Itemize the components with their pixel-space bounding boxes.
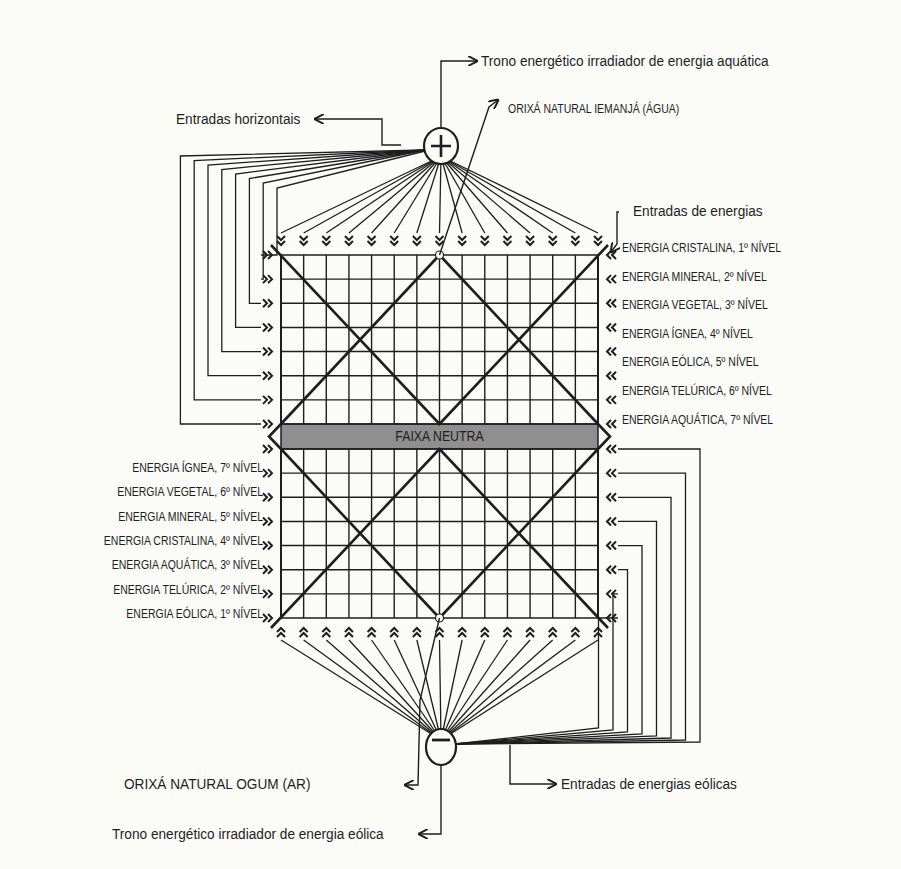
- chevron-up-icon: [458, 628, 466, 637]
- chevron-right-icon: [263, 590, 272, 598]
- chevron-right-icon: [263, 420, 272, 428]
- chevron-left-icon: [607, 420, 616, 428]
- right-level-label: ENERGIA ÍGNEA, 4º NÍVEL: [622, 328, 753, 340]
- chevron-down-icon: [413, 236, 421, 245]
- fan-line: [448, 161, 553, 233]
- eolic-entries-arrow: [510, 745, 556, 784]
- chevron-left-icon: [607, 469, 616, 477]
- fan-line: [281, 161, 431, 233]
- fan-line: [450, 161, 598, 233]
- chevron-right-icon: [263, 517, 272, 525]
- energy-entries-label: Entradas de energias: [633, 203, 763, 219]
- horizontal-entries-arrow: [315, 119, 401, 145]
- bottom-throne-label: Trono energético irradiador de energia e…: [112, 826, 384, 842]
- chevron-down-icon: [368, 236, 376, 245]
- chevron-right-icon: [263, 323, 272, 331]
- chevron-up-icon: [526, 628, 534, 637]
- left-level-label: ENERGIA TELÚRICA, 2º NÍVEL: [88, 584, 263, 596]
- chevron-left-icon: [607, 299, 616, 307]
- fan-line: [349, 161, 436, 233]
- left-level-label: ENERGIA VEGETAL, 6º NÍVEL: [88, 486, 263, 498]
- chevron-left-icon: [607, 275, 616, 283]
- chevron-left-icon: [607, 396, 616, 404]
- chevron-down-icon: [345, 236, 353, 245]
- eolic-entries-label: Entradas de energias eólicas: [561, 776, 737, 792]
- chevron-left-icon: [607, 445, 616, 453]
- fan-line: [417, 161, 440, 233]
- chevron-down-icon: [549, 236, 557, 245]
- iemanja-arrow: [440, 100, 499, 255]
- chevron-down-icon: [458, 236, 466, 245]
- chevron-left-icon: [607, 517, 616, 525]
- chevron-right-icon: [263, 275, 272, 283]
- left-level-label: ENERGIA AQUÁTICA, 3º NÍVEL: [88, 559, 263, 571]
- chevron-up-icon: [390, 628, 398, 637]
- left-level-label: ENERGIA CRISTALINA, 4º NÍVEL: [88, 535, 263, 547]
- chevron-down-icon: [594, 236, 602, 245]
- fan-line: [445, 640, 507, 734]
- fan-line: [304, 640, 433, 734]
- chevron-up-icon: [300, 628, 308, 637]
- left-level-label: ENERGIA EÓLICA, 1º NÍVEL: [88, 608, 263, 620]
- right-level-label: ENERGIA EÓLICA, 5º NÍVEL: [622, 356, 759, 368]
- fan-line: [417, 640, 440, 734]
- chevron-left-icon: [607, 493, 616, 501]
- neutral-band-label: FAIXA NEUTRA: [300, 429, 579, 443]
- fan-line: [445, 161, 507, 233]
- top-throne-arrow: [441, 61, 477, 128]
- chevron-down-icon: [390, 236, 398, 245]
- chevron-right-icon: [263, 445, 272, 453]
- chevron-right-icon: [263, 493, 272, 501]
- chevron-left-icon: [607, 348, 616, 356]
- fan-line: [326, 640, 434, 734]
- chevron-down-icon: [300, 236, 308, 245]
- chevron-left-icon: [607, 323, 616, 331]
- chevron-up-icon: [503, 628, 511, 637]
- right-level-label: ENERGIA TELÚRICA, 6º NÍVEL: [622, 385, 772, 397]
- eolic-entry-line: [455, 570, 628, 744]
- chevron-right-icon: [263, 299, 272, 307]
- chevron-up-icon: [413, 628, 421, 637]
- minus-pole-icon: [426, 729, 456, 765]
- chevron-down-icon: [526, 236, 534, 245]
- fan-line: [372, 640, 437, 734]
- chevron-up-icon: [345, 628, 353, 637]
- right-level-label: ENERGIA VEGETAL, 3º NÍVEL: [622, 299, 768, 311]
- chevron-down-icon: [436, 236, 444, 245]
- horizontal-entries-label: Entradas horizontais: [176, 111, 300, 127]
- chevron-left-icon: [607, 542, 616, 550]
- chevron-left-icon: [607, 566, 616, 574]
- left-level-label: ENERGIA MINERAL, 5º NÍVEL: [88, 511, 263, 523]
- right-level-label: ENERGIA AQUÁTICA, 7º NÍVEL: [622, 414, 773, 426]
- energy-entries-arrow: [611, 212, 619, 252]
- top-throne-label: Trono energético irradiador de energia a…: [481, 53, 769, 69]
- chevron-right-icon: [263, 469, 272, 477]
- chevron-down-icon: [503, 236, 511, 245]
- orixa-iemanja-label: ORIXÁ NATURAL IEMANJÁ (ÁGUA): [508, 103, 679, 115]
- chevron-down-icon: [322, 236, 330, 245]
- right-level-label: ENERGIA MINERAL, 2º NÍVEL: [622, 271, 767, 283]
- chevron-left-icon: [607, 372, 616, 380]
- chevron-up-icon: [481, 628, 489, 637]
- fan-line: [394, 161, 438, 233]
- chevron-up-icon: [571, 628, 579, 637]
- fan-line: [440, 161, 441, 233]
- chevron-down-icon: [277, 236, 285, 245]
- chevron-up-icon: [549, 628, 557, 637]
- bottom-throne-arrow: [419, 765, 441, 834]
- fan-line: [450, 640, 598, 734]
- horizontal-entry-line: [194, 150, 425, 400]
- chevron-up-icon: [277, 628, 285, 637]
- chevron-right-icon: [263, 372, 272, 380]
- fan-line: [440, 640, 441, 734]
- fan-line: [304, 161, 433, 233]
- chevron-up-icon: [368, 628, 376, 637]
- orixa-ogum-label: ORIXÁ NATURAL OGUM (AR): [124, 776, 310, 792]
- right-level-label: ENERGIA CRISTALINA, 1º NÍVEL: [622, 242, 781, 254]
- chevron-up-icon: [322, 628, 330, 637]
- chevron-right-icon: [263, 566, 272, 574]
- chevron-right-icon: [263, 614, 272, 622]
- left-level-label: ENERGIA ÍGNEA, 7º NÍVEL: [88, 462, 263, 474]
- fan-line: [448, 640, 553, 734]
- eolic-entry-line: [455, 497, 671, 744]
